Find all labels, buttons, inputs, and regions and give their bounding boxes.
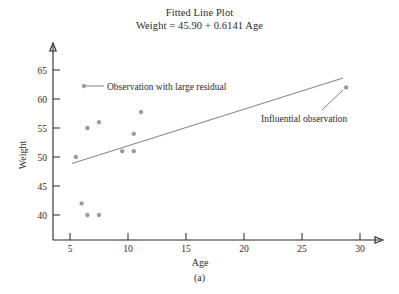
x-tick-label-15: 15 [181, 244, 191, 254]
figure-caption: (a) [0, 272, 399, 283]
y-tick-label-40: 40 [38, 211, 48, 221]
data-point [120, 149, 124, 153]
data-point [80, 202, 84, 206]
data-point [74, 155, 78, 159]
annotation-influential: Influential observation [261, 90, 348, 124]
data-point-large-residual [139, 110, 143, 114]
data-point-influential [344, 86, 348, 90]
data-point [86, 213, 90, 217]
annotation-leader-line-influential [322, 90, 343, 110]
data-points-group [74, 86, 348, 217]
annotation-label-influential: Influential observation [261, 114, 348, 124]
y-tick-label-65: 65 [38, 66, 48, 76]
annotation-marker-icon [82, 84, 86, 88]
data-point [86, 126, 90, 130]
data-point [132, 149, 136, 153]
x-tick-label-10: 10 [123, 244, 133, 254]
y-tick-label-60: 60 [38, 95, 48, 105]
data-point [97, 213, 101, 217]
annotation-label-large-residual: Observation with large residual [107, 82, 227, 92]
x-axis-title: Age [192, 257, 209, 268]
data-point [97, 120, 101, 124]
annotation-large-residual: Observation with large residual [82, 82, 227, 92]
scatter-plot-canvas: 40 45 50 55 60 65 5 10 15 20 25 30 Weigh… [0, 0, 399, 294]
y-tick-label-50: 50 [38, 153, 48, 163]
x-axis-ticks: 5 10 15 20 25 30 [68, 233, 365, 254]
y-axis-ticks: 40 45 50 55 60 65 [38, 66, 61, 221]
x-tick-label-5: 5 [68, 244, 73, 254]
y-axis-title: Weight [17, 140, 28, 169]
x-tick-label-25: 25 [297, 244, 307, 254]
x-tick-label-20: 20 [239, 244, 249, 254]
y-tick-label-45: 45 [38, 182, 48, 192]
data-point [132, 132, 136, 136]
fitted-line-plot-figure: Fitted Line Plot Weight = 45.90 + 0.6141… [0, 0, 399, 294]
x-tick-label-30: 30 [355, 244, 365, 254]
y-tick-label-55: 55 [38, 124, 48, 134]
